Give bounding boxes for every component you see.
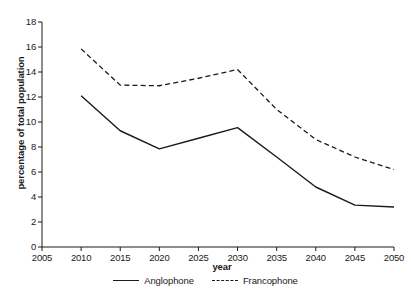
legend-item-anglophone: Anglophone (113, 276, 194, 286)
y-axis-ticks (38, 22, 42, 247)
legend-label: Francophone (243, 276, 298, 286)
series-layer (81, 49, 394, 207)
legend-label: Anglophone (144, 276, 194, 286)
axis-lines (42, 22, 394, 247)
legend-swatch-dashed-icon (212, 277, 238, 285)
series-line-francophone (81, 49, 394, 170)
x-axis-title: year (42, 261, 402, 272)
y-axis-title: percentage of total population (14, 0, 28, 248)
line-chart: 024681012141618 200520102015202020252030… (0, 0, 411, 290)
series-line-anglophone (81, 96, 394, 207)
legend-swatch-solid-icon (113, 277, 139, 285)
plot-area (0, 0, 411, 290)
x-axis-ticks (42, 247, 394, 251)
legend-item-francophone: Francophone (212, 276, 298, 286)
chart-legend: Anglophone Francophone (0, 276, 411, 286)
